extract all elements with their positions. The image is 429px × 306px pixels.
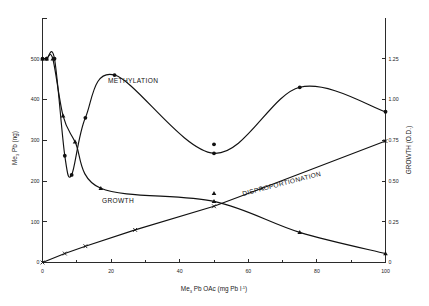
- figure-container: 0100200300400500 00.250.500.751.001.25 0…: [0, 0, 429, 306]
- marker-methylation: [83, 116, 87, 120]
- chart-canvas: 0100200300400500 00.250.500.751.001.25 0…: [0, 0, 429, 306]
- x-axis-title-post: ): [245, 285, 247, 293]
- marker-methylation: [384, 110, 388, 114]
- marker-methylation: [63, 154, 67, 158]
- x-axis-ticklabels: 020406080100: [41, 268, 390, 274]
- x-ticklabel: 0: [41, 268, 44, 274]
- axes-group: [43, 18, 386, 263]
- right-ticklabel: 0.25: [389, 219, 399, 225]
- left-ticklabel: 200: [31, 178, 40, 184]
- x-axis-title: Me3 Pb OAc (mg Pb l-1): [181, 285, 247, 294]
- marker-extra: [212, 142, 216, 146]
- curve-methylation: [43, 52, 386, 178]
- x-ticklabel: 80: [314, 268, 320, 274]
- left-ticklabel: 400: [31, 96, 40, 102]
- marker-growth: [73, 140, 78, 144]
- data-curves-group: [43, 52, 386, 263]
- marker-growth: [61, 114, 66, 118]
- left-ticklabel: 500: [31, 56, 40, 62]
- left-axis-ticklabels: 0100200300400500: [31, 56, 40, 266]
- x-axis-ticks: [43, 259, 386, 263]
- marker-methylation: [70, 173, 74, 177]
- right-ticklabel: 0.75: [389, 137, 399, 143]
- x-ticklabel: 20: [108, 268, 114, 274]
- right-axis-ticks: [382, 59, 386, 263]
- marker-methylation: [298, 85, 302, 89]
- extra-markers-group: [212, 142, 217, 195]
- right-ticklabel: 0: [389, 259, 392, 265]
- right-ticklabel: 1.25: [389, 56, 399, 62]
- left-ticklabel: 100: [31, 219, 40, 225]
- left-axis-ticks: [43, 18, 47, 263]
- curve-label-growth: GROWTH: [102, 197, 134, 204]
- right-ticklabel: 0.50: [389, 178, 399, 184]
- right-ticklabel: 1.00: [389, 96, 399, 102]
- marker-extra: [212, 191, 217, 195]
- x-ticklabel: 100: [381, 268, 390, 274]
- right-axis-ticklabels: 00.250.500.751.001.25: [389, 56, 399, 266]
- right-axis-title: GROWTH (O.D.): [405, 126, 413, 174]
- left-axis-title: Me3 Pb (ng): [11, 131, 20, 165]
- x-ticklabel: 60: [245, 268, 251, 274]
- x-ticklabel: 40: [177, 268, 183, 274]
- curve-label-methylation: METHYLATION: [108, 77, 158, 84]
- left-ticklabel: 0: [37, 259, 40, 265]
- x-axis-title-mid: Pb OAc (mg Pb l: [192, 285, 241, 293]
- left-axis-title-mid: Pb (ng): [11, 131, 19, 154]
- left-ticklabel: 300: [31, 137, 40, 143]
- curve-label-disproportionation: DISPROPORTIONATION: [241, 170, 321, 197]
- marker-methylation: [212, 151, 216, 155]
